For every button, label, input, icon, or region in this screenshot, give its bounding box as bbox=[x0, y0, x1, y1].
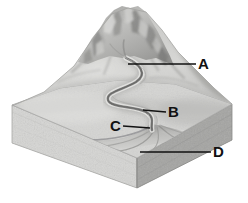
label-c-text: C bbox=[110, 117, 121, 134]
label-d-text: D bbox=[213, 143, 224, 160]
label-a-text: A bbox=[198, 55, 209, 72]
figure-canvas: A B C D bbox=[0, 0, 248, 203]
block-diagram: A B C D bbox=[0, 0, 248, 203]
label-b-text: B bbox=[168, 103, 179, 120]
